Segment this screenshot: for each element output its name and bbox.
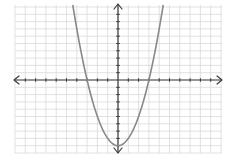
coordinate-plane	[0, 0, 232, 164]
